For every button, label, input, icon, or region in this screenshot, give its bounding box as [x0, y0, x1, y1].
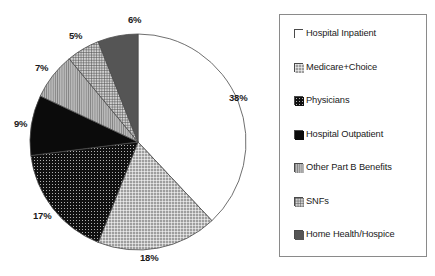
- legend-item-label: Medicare+Choice: [306, 62, 377, 73]
- legend-swatch-icon: [294, 197, 303, 206]
- legend-item-label: Hospital Outpatient: [306, 129, 383, 140]
- legend-item[interactable]: SNFs: [294, 196, 426, 207]
- pie-chart-plot-area: 38%18%17%9%7%5%6%: [0, 0, 275, 276]
- pie-slice-value-label: 17%: [33, 210, 51, 221]
- legend-item[interactable]: Physicians: [294, 95, 426, 106]
- legend-item-list: Hospital InpatientMedicare+ChoicePhysici…: [294, 28, 426, 263]
- legend-swatch-icon: [294, 130, 303, 139]
- legend-item-label: Hospital Inpatient: [306, 28, 376, 39]
- legend-swatch-icon: [294, 96, 303, 105]
- pie-slice-value-label: 18%: [140, 252, 158, 263]
- legend-item-label: Other Part B Benefits: [306, 162, 392, 173]
- pie-chart-svg: [0, 0, 275, 276]
- legend-item[interactable]: Hospital Inpatient: [294, 28, 426, 39]
- legend-swatch-icon: [294, 63, 303, 72]
- pie-slice-value-label: 6%: [128, 14, 141, 25]
- pie-slice-value-label: 9%: [14, 118, 27, 129]
- legend-swatch-icon: [294, 163, 303, 172]
- pie-chart-figure: 38%18%17%9%7%5%6% Hospital InpatientMedi…: [0, 0, 435, 276]
- legend-item-label: Home Health/Hospice: [306, 229, 395, 240]
- legend-item[interactable]: Other Part B Benefits: [294, 162, 426, 173]
- legend-item[interactable]: Hospital Outpatient: [294, 129, 426, 140]
- pie-slice-value-label: 38%: [229, 92, 247, 103]
- legend-item[interactable]: Home Health/Hospice: [294, 229, 426, 240]
- legend-swatch-icon: [294, 29, 303, 38]
- legend-swatch-icon: [294, 230, 303, 239]
- chart-legend: Hospital InpatientMedicare+ChoicePhysici…: [279, 14, 427, 257]
- legend-item-label: SNFs: [306, 196, 329, 207]
- legend-item-label: Physicians: [306, 95, 349, 106]
- legend-item[interactable]: Medicare+Choice: [294, 62, 426, 73]
- pie-slice-value-label: 5%: [69, 30, 82, 41]
- pie-slice-value-label: 7%: [35, 62, 48, 73]
